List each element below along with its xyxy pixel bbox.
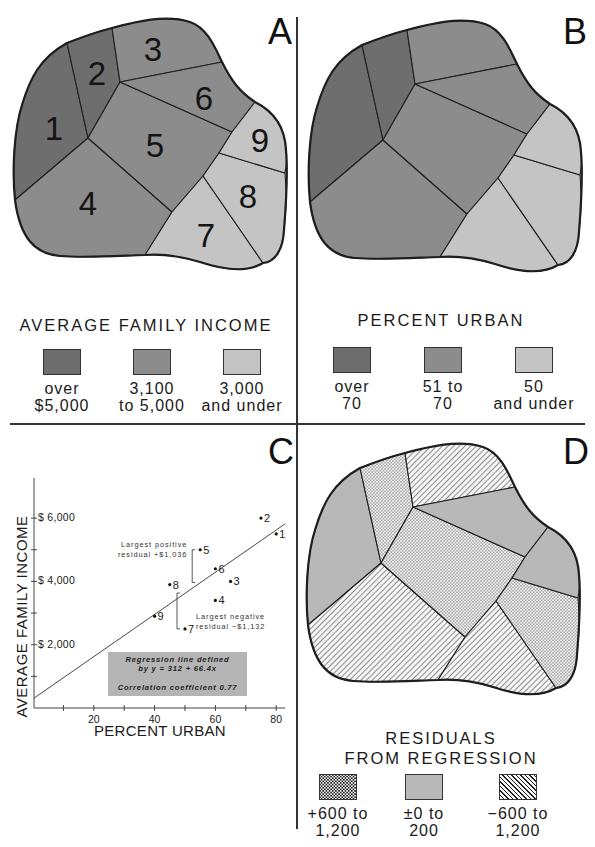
x-tick-label: 80 <box>261 713 291 725</box>
legend-label: 3,000and under <box>197 380 287 414</box>
legend-label: over70 <box>307 378 397 412</box>
regression-line-text: Regression line defined <box>108 655 247 664</box>
data-point-5 <box>199 548 202 551</box>
point-label-1: 1 <box>279 528 285 540</box>
region-label-3: 3 <box>144 31 162 68</box>
point-label-9: 9 <box>158 610 164 622</box>
x-tick-label: 60 <box>200 713 230 725</box>
region-label-1: 1 <box>45 110 63 147</box>
region-label-4: 4 <box>79 185 97 222</box>
map-residuals <box>293 425 589 715</box>
residual-bracket-7 <box>177 593 180 629</box>
residual-bracket-5 <box>192 550 195 583</box>
y-tick-label: $ 6,000 <box>38 511 75 523</box>
data-point-2 <box>259 517 262 520</box>
legend-swatch-medium <box>424 347 462 373</box>
legend-d-item-negative: −600 to1,200 <box>473 774 563 839</box>
data-point-7 <box>183 627 186 630</box>
x-tick-label: 40 <box>140 713 170 725</box>
point-label-5: 5 <box>203 544 209 556</box>
legend-label: +600 to1,200 <box>293 805 383 839</box>
legend-swatch-medium <box>133 349 171 375</box>
correlation-coefficient: Correlation coefficient 0.77 <box>108 683 247 692</box>
legend-label: 50and under <box>489 378 579 412</box>
point-label-4: 4 <box>218 594 224 606</box>
legend-b-title: PERCENT URBAN <box>296 311 586 330</box>
legend-swatch-light <box>515 347 553 373</box>
legend-swatch-light <box>223 349 261 375</box>
legend-b-item-51-70: 51 to70 <box>398 347 488 412</box>
legend-label: over$5,000 <box>17 380 107 414</box>
legend-a-item-over-5000: over$5,000 <box>17 349 107 414</box>
point-label-8: 8 <box>173 579 179 591</box>
legend-d-item-positive: +600 to1,200 <box>293 774 383 839</box>
point-label-6: 6 <box>218 563 224 575</box>
point-label-7: 7 <box>188 623 194 635</box>
region-label-8: 8 <box>239 178 257 215</box>
y-axis-title: AVERAGE FAMILY INCOME <box>13 502 30 732</box>
legend-swatch-dark <box>333 347 371 373</box>
data-point-9 <box>153 615 156 618</box>
data-point-8 <box>168 583 171 586</box>
legend-a-title: AVERAGE FAMILY INCOME <box>0 316 292 335</box>
point-label-2: 2 <box>264 512 270 524</box>
region-label-7: 7 <box>197 217 215 254</box>
legend-label: 51 to70 <box>398 378 488 412</box>
legend-swatch-dark <box>43 349 81 375</box>
region-label-5: 5 <box>146 127 164 164</box>
x-tick-label: 20 <box>79 713 109 725</box>
legend-swatch-dots <box>319 774 357 800</box>
data-point-1 <box>275 532 278 535</box>
y-tick-label: $ 2,000 <box>38 638 75 650</box>
region-label-6: 6 <box>195 80 213 117</box>
legend-a-item-3000-under: 3,000and under <box>197 349 287 414</box>
annotation-largest-negative: Largest negativeresidual −$1,132 <box>196 612 265 631</box>
legend-a-item-3100-5000: 3,100to 5,000 <box>107 349 197 414</box>
region-label-2: 2 <box>88 55 106 92</box>
annotation-largest-positive: Largest positiveresidual +$1,036 <box>118 540 187 559</box>
region-label-9: 9 <box>251 122 269 159</box>
legend-swatch-hatch <box>499 774 537 800</box>
legend-label: 3,100to 5,000 <box>107 380 197 414</box>
point-label-3: 3 <box>234 575 240 587</box>
data-point-4 <box>214 599 217 602</box>
legend-d-item-zero: ±0 to200 <box>379 774 469 839</box>
map-percent-urban <box>295 2 591 292</box>
map-average-family-income: 123456789 <box>0 0 296 290</box>
legend-label: ±0 to200 <box>379 805 469 839</box>
regression-equation: by y = 312 + 66.4x <box>108 664 247 673</box>
legend-swatch-zero <box>405 774 443 800</box>
legend-d-title: RESIDUALSFROM REGRESSION <box>296 728 586 768</box>
data-point-3 <box>229 580 232 583</box>
legend-label: −600 to1,200 <box>473 805 563 839</box>
regression-info-box: Regression line defined by y = 312 + 66.… <box>108 652 247 696</box>
data-point-6 <box>214 567 217 570</box>
y-tick-label: $ 4,000 <box>38 574 75 586</box>
legend-b-item-50-under: 50and under <box>489 347 579 412</box>
legend-b-item-over-70: over70 <box>307 347 397 412</box>
